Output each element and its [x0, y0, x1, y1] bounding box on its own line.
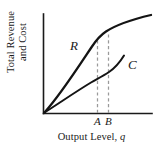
revenue-curve-label: R	[69, 38, 78, 53]
x-axis-label-text: Output Level,	[58, 131, 118, 142]
cost-curve-label: C	[128, 57, 137, 72]
x-axis-label: Output Level, q	[28, 131, 155, 143]
cost-curve	[45, 56, 125, 113]
tick-label-a: A	[93, 115, 101, 127]
x-axis-label-variable: q	[120, 131, 125, 142]
chart-figure: Total Revenue and Cost R C A B Output Le…	[0, 0, 155, 155]
tick-label-b: B	[105, 115, 112, 127]
